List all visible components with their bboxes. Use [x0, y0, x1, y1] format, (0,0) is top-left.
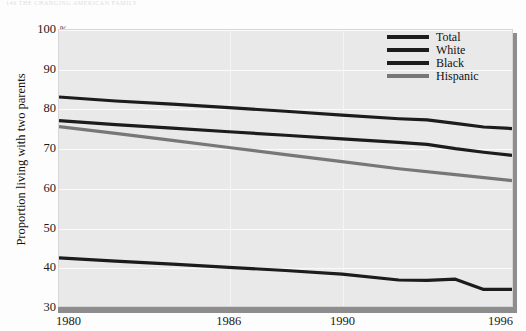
x-tick-label: 1980 [56, 315, 81, 328]
legend-item-total: Total [387, 30, 505, 43]
legend-swatch-icon [387, 48, 429, 52]
chart-legend: TotalWhiteBlackHispanic [387, 30, 505, 82]
series-line-black [59, 258, 512, 290]
y-axis-ticks: 10090807060504030 [0, 0, 56, 331]
legend-swatch-icon [387, 74, 429, 78]
legend-label: Hispanic [436, 70, 479, 82]
legend-swatch-icon [387, 61, 429, 65]
legend-item-black: Black [387, 56, 505, 69]
y-tick-label: 80 [4, 102, 56, 115]
legend-label: Total [436, 31, 461, 43]
legend-swatch-icon [387, 35, 429, 39]
legend-item-white: White [387, 43, 505, 56]
y-tick-label: 50 [4, 222, 56, 235]
series-line-white [59, 121, 512, 156]
y-tick-label: 60 [4, 182, 56, 195]
y-tick-label: 30 [4, 301, 56, 314]
chart-page: 146 THE CHANGING AMERICAN FAMILY Proport… [0, 0, 526, 331]
x-axis-bar [58, 307, 517, 313]
legend-label: Black [436, 57, 464, 69]
x-tick-label: 1986 [216, 315, 241, 328]
x-tick-label: 1996 [488, 315, 513, 328]
y-tick-label: 40 [4, 261, 56, 274]
legend-label: White [436, 44, 465, 56]
x-tick-label: 1990 [330, 315, 355, 328]
y-tick-label: 70 [4, 142, 56, 155]
y-tick-label: 100 [4, 23, 56, 36]
legend-item-hispanic: Hispanic [387, 69, 505, 82]
y-tick-label: 90 [4, 63, 56, 76]
